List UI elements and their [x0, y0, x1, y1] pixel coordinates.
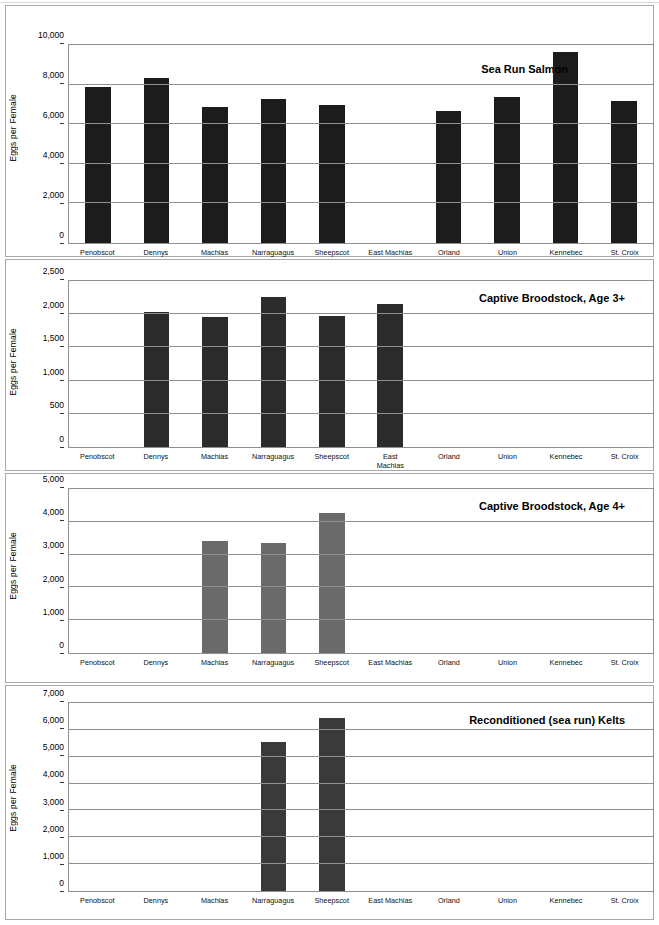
- gridline: [69, 346, 653, 347]
- x-axis-tick-label: East Machias: [361, 452, 420, 470]
- bar: [553, 52, 579, 243]
- y-axis-tick-mark: [60, 203, 64, 204]
- y-axis-tick-mark: [60, 279, 64, 280]
- gridline: [69, 586, 653, 587]
- bar-slot: [303, 281, 361, 447]
- x-axis-tick-label: St. Croix: [595, 658, 654, 667]
- x-axis-tick-label: Dennys: [127, 658, 186, 667]
- x-axis-tick-label: Union: [478, 896, 537, 905]
- series-annotation: Sea Run Salmon: [481, 63, 568, 75]
- y-axis-tick-label: 1,500: [8, 334, 64, 343]
- x-axis-tick-label: Sheepscot: [302, 452, 361, 470]
- y-axis-tick-label: 0: [8, 435, 64, 444]
- x-axis-tick-label: Dennys: [127, 452, 186, 470]
- gridline: [69, 809, 653, 810]
- x-axis-tick-label: Kennebec: [537, 248, 596, 257]
- bar-slot: [186, 45, 244, 243]
- y-axis-ticks: 02,0004,0006,0008,00010,000: [6, 44, 64, 244]
- bar-slot: [419, 45, 477, 243]
- y-axis-tick-label: 1,000: [8, 607, 64, 616]
- series-annotation: Captive Broodstock, Age 4+: [479, 500, 625, 512]
- chart-panel-captive-broodstock-age-3: Eggs per Female 05001,0001,5002,0002,500…: [5, 259, 654, 471]
- y-axis-tick-mark: [60, 413, 64, 414]
- y-axis-tick-mark: [60, 837, 64, 838]
- y-axis-tick-mark: [60, 313, 64, 314]
- bar-series: [69, 281, 653, 447]
- y-axis-ticks: 05001,0001,5002,0002,500: [6, 280, 64, 448]
- bar: [319, 316, 345, 447]
- x-axis-tick-label: Narraguagus: [244, 452, 303, 470]
- y-axis-tick-mark: [60, 83, 64, 84]
- gridline: [69, 863, 653, 864]
- bar: [261, 99, 287, 243]
- y-axis-tick-mark: [60, 653, 64, 654]
- bar-slot: [595, 281, 653, 447]
- bar-slot: [361, 45, 419, 243]
- x-axis-tick-label: Machias: [185, 896, 244, 905]
- x-axis-tick-label: St. Croix: [595, 896, 654, 905]
- bar-slot: [536, 489, 594, 653]
- x-axis-tick-label: Dennys: [127, 896, 186, 905]
- y-axis-tick-mark: [60, 701, 64, 702]
- gridline: [69, 619, 653, 620]
- x-axis-tick-label: Union: [478, 452, 537, 470]
- x-axis-tick-label: St. Croix: [595, 248, 654, 257]
- plot-area: [68, 488, 654, 654]
- series-annotation: Captive Broodstock, Age 3+: [479, 292, 625, 304]
- x-axis-tick-label: Machias: [185, 248, 244, 257]
- y-axis-tick-label: 6,000: [8, 111, 64, 120]
- x-axis-tick-label: St. Croix: [595, 452, 654, 470]
- series-annotation: Reconditioned (sea run) Kelts: [469, 714, 625, 726]
- y-axis-tick-mark: [60, 587, 64, 588]
- y-axis-tick-mark: [60, 243, 64, 244]
- y-axis-tick-mark: [60, 43, 64, 44]
- y-axis-tick-mark: [60, 728, 64, 729]
- bar: [319, 513, 345, 653]
- gridline: [69, 84, 653, 85]
- gridline: [69, 521, 653, 522]
- x-axis-tick-label: Penobscot: [68, 658, 127, 667]
- x-axis-tick-label: Kennebec: [537, 452, 596, 470]
- chart-sea-run-salmon: Eggs per Female 02,0004,0006,0008,00010,…: [6, 6, 653, 256]
- bar-slot: [303, 489, 361, 653]
- y-axis-tick-label: 2,000: [8, 300, 64, 309]
- y-axis-tick-mark: [60, 891, 64, 892]
- bar-slot: [186, 489, 244, 653]
- y-axis-tick-label: 500: [8, 401, 64, 410]
- bar-slot: [244, 45, 302, 243]
- bar-series: [69, 489, 653, 653]
- x-axis-tick-label: Dennys: [127, 248, 186, 257]
- y-axis-tick-label: 0: [8, 641, 64, 650]
- y-axis-tick-label: 5,000: [8, 743, 64, 752]
- bar-slot: [595, 45, 653, 243]
- gridline: [69, 163, 653, 164]
- y-axis-tick-mark: [60, 447, 64, 448]
- y-axis-tick-label: 3,000: [8, 541, 64, 550]
- y-axis-tick-label: 0: [8, 231, 64, 240]
- chart-panel-captive-broodstock-age-4: Eggs per Female 01,0002,0003,0004,0005,0…: [5, 473, 654, 683]
- bar-slot: [361, 281, 419, 447]
- bar: [144, 78, 170, 243]
- bar: [319, 718, 345, 891]
- y-axis-tick-label: 4,000: [8, 151, 64, 160]
- y-axis-tick-mark: [60, 346, 64, 347]
- bar: [377, 304, 403, 447]
- x-axis-tick-label: Kennebec: [537, 896, 596, 905]
- x-axis-tick-label: Sheepscot: [302, 248, 361, 257]
- bar-slot: [595, 489, 653, 653]
- y-axis-tick-mark: [60, 163, 64, 164]
- x-axis-tick-label: East Machias: [361, 896, 420, 905]
- bar-slot: [244, 489, 302, 653]
- bar-slot: [361, 489, 419, 653]
- x-axis-tick-label: Sheepscot: [302, 896, 361, 905]
- y-axis-tick-label: 1,000: [8, 367, 64, 376]
- x-axis-tick-label: Union: [478, 658, 537, 667]
- gridline: [69, 413, 653, 414]
- y-axis-tick-mark: [60, 864, 64, 865]
- x-axis-labels: PenobscotDennysMachiasNarraguagusSheepsc…: [68, 248, 654, 257]
- plot-area: [68, 702, 654, 892]
- gridline: [69, 756, 653, 757]
- y-axis-tick-mark: [60, 487, 64, 488]
- x-axis-labels: PenobscotDennysMachiasNarraguagusSheepsc…: [68, 658, 654, 667]
- x-axis-tick-label: Union: [478, 248, 537, 257]
